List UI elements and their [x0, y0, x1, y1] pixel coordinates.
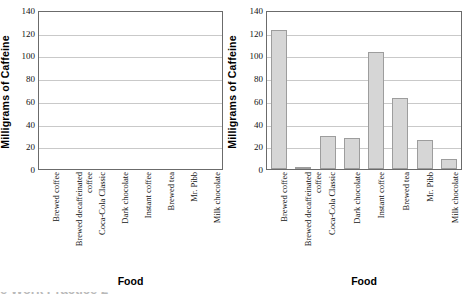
- y-axis-ticks-right: 140 120 100 80 60 40 20 0: [233, 11, 263, 170]
- bar-group: [388, 12, 412, 169]
- y-tick-label: 80: [9, 75, 35, 84]
- x-axis-title-left: Food: [38, 275, 223, 288]
- bar: [368, 52, 384, 169]
- cropped-caption-text: e Work Practice 2: [0, 292, 108, 298]
- y-tick-label: 0: [237, 166, 263, 175]
- y-tick-label: 0: [9, 166, 35, 175]
- x-tick-label: Brewed tea: [167, 172, 189, 268]
- x-tick-label: Brewed coffee: [52, 172, 74, 268]
- x-tick-label: Coca-Cola Classic: [98, 172, 120, 268]
- x-tick-label: Milk chocolate: [451, 172, 466, 268]
- x-tick-label: Brewed coffee: [280, 172, 302, 268]
- x-tick-label: Brewed tea: [402, 172, 424, 268]
- x-tick-label: Brewed decaffeinated coffee: [304, 172, 326, 268]
- y-tick-label: 100: [9, 52, 35, 61]
- chart-panel-left: Milligrams of Caffeine 140 120 100 80 60…: [0, 0, 227, 302]
- plot-area-left: [38, 11, 223, 170]
- y-tick-label: 20: [237, 143, 263, 152]
- bar: [344, 138, 360, 169]
- bar-group: [291, 12, 315, 169]
- y-tick-label: 140: [9, 7, 35, 16]
- bar: [320, 136, 336, 169]
- bar-group: [437, 12, 461, 169]
- y-tick-label: 60: [9, 98, 35, 107]
- bar: [295, 167, 311, 169]
- x-tick-label: Coca-Cola Classic: [328, 172, 350, 268]
- bar-group: [413, 12, 437, 169]
- y-axis-ticks-left: 140 120 100 80 60 40 20 0: [5, 11, 35, 170]
- y-tick-label: 40: [9, 121, 35, 130]
- y-tick-label: 80: [237, 75, 263, 84]
- bar-group: [340, 12, 364, 169]
- bar: [417, 140, 433, 169]
- x-tick-label: Brewed decaffeinated coffee: [75, 172, 97, 268]
- x-tick-label: Mr. Pibb: [190, 172, 212, 268]
- plot-area-right: [266, 11, 462, 170]
- y-tick-label: 40: [237, 121, 263, 130]
- x-tick-label: Dark chocolate: [121, 172, 143, 268]
- y-tick-label: 60: [237, 98, 263, 107]
- x-axis-labels-right: Brewed coffee Brewed decaffeinated coffe…: [266, 172, 462, 270]
- y-tick-label: 140: [237, 7, 263, 16]
- y-tick-label: 120: [237, 30, 263, 39]
- y-tick-label: 120: [9, 30, 35, 39]
- bars-left: [39, 12, 222, 169]
- bar: [392, 98, 408, 169]
- bar-group: [267, 12, 291, 169]
- cropped-caption: e Work Practice 2: [0, 292, 200, 302]
- bar-group: [364, 12, 388, 169]
- x-tick-label: Dark chocolate: [353, 172, 375, 268]
- bar: [441, 159, 457, 169]
- x-axis-labels-left: Brewed coffee Brewed decaffeinated coffe…: [38, 172, 223, 270]
- x-tick-label: Instant coffee: [144, 172, 166, 268]
- x-tick-label: Instant coffee: [377, 172, 399, 268]
- y-tick-label: 100: [237, 52, 263, 61]
- bars-right: [267, 12, 461, 169]
- x-tick-label: Mr. Pibb: [426, 172, 448, 268]
- bar: [271, 30, 287, 169]
- x-axis-title-right: Food: [266, 275, 462, 288]
- y-tick-label: 20: [9, 143, 35, 152]
- chart-panel-right: Milligrams of Caffeine 140 120 100 80 60…: [227, 0, 454, 302]
- bar-group: [316, 12, 340, 169]
